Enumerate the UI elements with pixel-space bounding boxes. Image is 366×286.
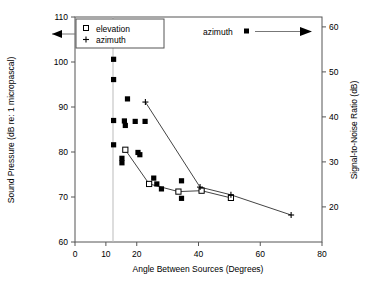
left-tick-label: 70 — [59, 192, 69, 202]
data-point-open-square — [123, 147, 128, 152]
right-axis-tick-labels: 2030405060 — [329, 22, 339, 212]
chart-svg: 60708090100110 2030405060 01020406080 el… — [0, 0, 366, 286]
left-tick-label: 60 — [59, 237, 69, 247]
x-tick-label: 20 — [132, 249, 142, 259]
data-point-filled-square — [111, 57, 116, 62]
chart-figure: 60708090100110 2030405060 01020406080 el… — [0, 0, 366, 286]
data-point-filled-square — [154, 181, 159, 186]
x-axis-tick-labels: 01020406080 — [73, 249, 327, 259]
annotation-marker-filled-square-icon — [244, 29, 249, 34]
x-tick-label: 0 — [73, 249, 78, 259]
data-point-filled-square — [159, 186, 164, 191]
data-point-filled-square — [135, 150, 140, 155]
x-tick-label: 40 — [194, 249, 204, 259]
data-point-filled-square — [151, 176, 156, 181]
data-point-filled-square — [133, 119, 138, 124]
left-axis-ticks — [71, 17, 75, 242]
x-axis-ticks — [75, 242, 322, 246]
data-point-filled-square — [119, 160, 124, 165]
right-tick-label: 50 — [329, 67, 339, 77]
left-axis-tick-labels: 60708090100110 — [54, 12, 68, 247]
data-point-filled-square — [142, 119, 147, 124]
data-point-filled-square — [179, 178, 184, 183]
data-point-open-square — [147, 181, 152, 186]
data-point-filled-square — [119, 156, 124, 161]
right-tick-label: 20 — [329, 202, 339, 212]
left-tick-label: 90 — [59, 102, 69, 112]
data-point-filled-square — [111, 77, 116, 82]
data-point-filled-square — [111, 142, 116, 147]
left-tick-label: 80 — [59, 147, 69, 157]
legend-label-elevation: elevation — [96, 24, 130, 34]
left-arrow-icon — [52, 30, 62, 38]
x-axis-title: Angle Between Sources (Degrees) — [133, 264, 264, 274]
right-tick-label: 60 — [329, 22, 339, 32]
data-point-filled-square — [122, 118, 127, 123]
right-tick-label: 30 — [329, 157, 339, 167]
plot-area-frame — [75, 17, 322, 242]
left-tick-label: 100 — [54, 57, 68, 67]
data-point-open-square — [176, 189, 181, 194]
x-tick-label: 60 — [256, 249, 266, 259]
y2-axis-title: Signal-to-Noise Ratio (dB) — [349, 80, 359, 179]
legend: elevation azimuth — [76, 19, 164, 48]
y-axis-title: Sound Pressure (dB re: 1 micropascal) — [6, 57, 16, 204]
annotation-label-azimuth: azimuth — [203, 27, 233, 37]
data-point-filled-square — [125, 96, 130, 101]
left-axis-arrow-annotation — [52, 30, 76, 38]
data-point-filled-square — [111, 118, 116, 123]
x-tick-label: 10 — [101, 249, 111, 259]
legend-label-azimuth: azimuth — [96, 35, 126, 45]
right-tick-label: 40 — [329, 112, 339, 122]
left-tick-label: 110 — [54, 12, 68, 22]
data-point-filled-square — [179, 196, 184, 201]
right-axis-ticks — [322, 27, 326, 207]
data-point-filled-square — [123, 123, 128, 128]
x-tick-label: 80 — [317, 249, 327, 259]
